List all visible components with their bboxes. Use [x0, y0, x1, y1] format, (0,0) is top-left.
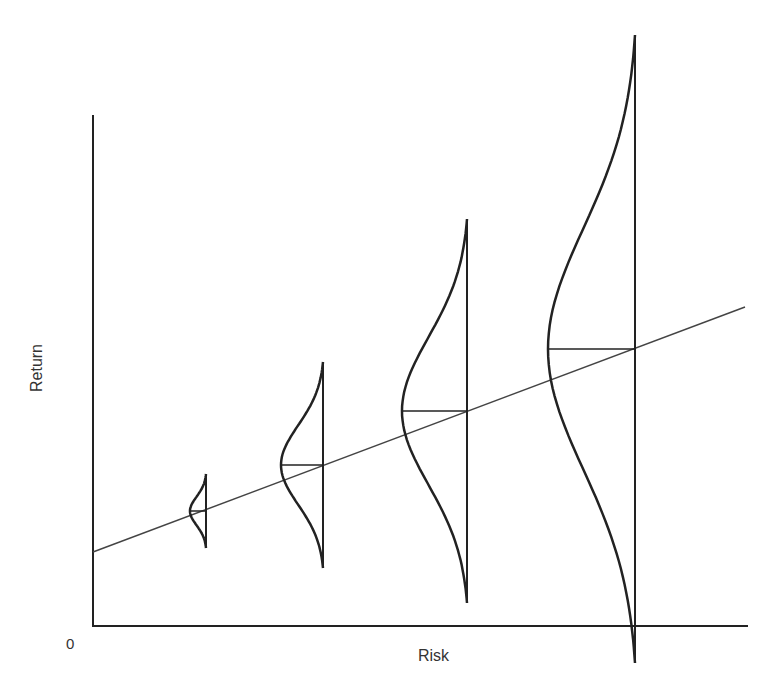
- distribution-2: [281, 362, 323, 568]
- risk-return-diagram: [0, 0, 781, 693]
- distribution-4: [548, 35, 635, 663]
- origin-label: 0: [66, 635, 74, 652]
- x-axis-label: Risk: [418, 647, 449, 665]
- distributions: [190, 35, 635, 663]
- axes: [92, 115, 748, 627]
- y-axis-label: Return: [28, 344, 46, 392]
- distribution-1: [190, 474, 206, 548]
- distribution-3: [402, 219, 467, 603]
